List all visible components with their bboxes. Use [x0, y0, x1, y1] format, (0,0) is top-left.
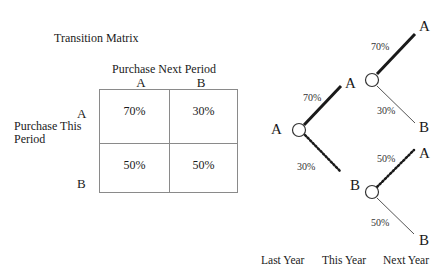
node-this-year-a [366, 74, 379, 87]
timeline-this-year: This Year [322, 255, 366, 267]
edge-a-a [377, 34, 415, 74]
prob-a-a: 70% [371, 41, 389, 52]
label-this-year-a: A [345, 75, 356, 91]
prob-a-b: 30% [377, 105, 395, 116]
node-root [293, 124, 306, 137]
edge-b-b [377, 198, 414, 234]
label-this-year-b: B [350, 177, 360, 193]
timeline-next-year: Next Year [383, 255, 429, 267]
label-next-year-ba: A [419, 145, 430, 161]
prob-root-b: 30% [297, 161, 315, 172]
prob-b-b: 50% [371, 217, 389, 228]
label-next-year-ab: B [419, 119, 429, 135]
label-next-year-aa: A [419, 18, 430, 34]
prob-b-a: 50% [377, 153, 395, 164]
node-this-year-b [366, 186, 379, 199]
probability-tree: A A B A B A B 70% 30% 70% 30% 50% 50% [0, 0, 448, 277]
prob-root-a: 70% [303, 92, 321, 103]
timeline-last-year: Last Year [261, 255, 304, 267]
label-next-year-bb: B [419, 232, 429, 248]
label-root: A [271, 121, 282, 137]
